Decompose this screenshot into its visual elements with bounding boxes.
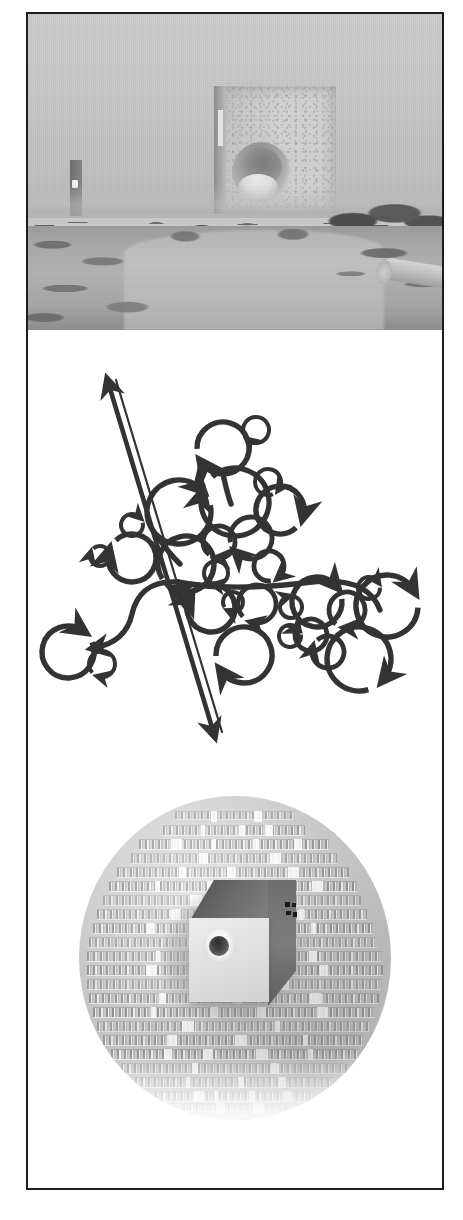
disc-text-gap	[309, 951, 317, 962]
cube-front-face	[189, 918, 269, 1002]
disc-text-gap	[235, 1035, 247, 1046]
disc-text-gap	[317, 1007, 328, 1018]
disc-text-gap	[253, 839, 259, 850]
panel-photograph	[28, 14, 442, 330]
circular-arrow-loop	[279, 625, 301, 647]
circular-arrow-loop	[256, 486, 304, 534]
panel-disc	[28, 782, 442, 1188]
disc-text-gap	[192, 1063, 198, 1074]
disc-text-gap	[214, 1091, 218, 1102]
figure-frame	[26, 12, 444, 1190]
disc-text-gap	[275, 1021, 280, 1032]
disc-text-row	[183, 1104, 287, 1111]
branch-curves	[94, 474, 380, 648]
diagram-canvas	[28, 330, 442, 782]
branch-curve-left	[94, 582, 178, 648]
registration-marks-icon	[285, 902, 301, 920]
disc-text-row	[111, 1050, 357, 1059]
disc-text-gap	[147, 923, 155, 934]
disc-text-gap	[193, 1091, 204, 1102]
disc-text-gap	[159, 993, 166, 1004]
circular-arrow-loop	[42, 626, 94, 678]
disc-text-gap	[256, 1049, 268, 1060]
disc-text-gap	[211, 811, 217, 822]
disc-text-gap	[216, 1103, 225, 1114]
disc-text-gap	[270, 853, 281, 864]
disc-text-gap	[212, 839, 216, 850]
disc-text-gap	[171, 839, 182, 850]
disc-text-gap	[203, 1049, 213, 1060]
circular-arrow-loop	[108, 534, 156, 582]
disc-text-gap	[156, 951, 160, 962]
disc-text-row	[121, 1064, 347, 1073]
disc-text-gap	[311, 923, 316, 934]
disc-text-gap	[278, 1077, 286, 1088]
disc-text-gap	[312, 881, 323, 892]
figure-page	[0, 0, 463, 1220]
disc-text-gap	[294, 839, 302, 850]
disc-text-gap	[239, 825, 245, 836]
disc-assembly	[79, 796, 391, 1120]
disc-text-row	[103, 1036, 363, 1045]
disc-text-gap	[288, 867, 299, 878]
disc-text-gap	[167, 1035, 177, 1046]
disc-text-gap	[271, 1063, 279, 1074]
disc-text-gap	[155, 881, 160, 892]
circular-arrow-loop	[327, 627, 391, 691]
disc-text-gap	[310, 993, 321, 1004]
disc-text-gap	[146, 965, 157, 976]
circular-arrow-loops	[42, 417, 418, 691]
disc-text-gap	[164, 1049, 172, 1060]
disc-text-gap	[265, 825, 273, 836]
disc-text-gap	[238, 1077, 244, 1088]
disc-text-row	[135, 1078, 333, 1087]
disc-text-gap	[320, 965, 328, 976]
disc-text-row	[175, 812, 293, 819]
disc-text-gap	[199, 853, 208, 864]
disc-text-row	[163, 826, 305, 835]
photo-grain-overlay	[28, 14, 442, 330]
disc-text-gap	[151, 1007, 156, 1018]
disc-text-gap	[249, 1091, 255, 1102]
disc-text-gap	[308, 1049, 313, 1060]
disc-text-gap	[254, 811, 262, 822]
disc-text-gap	[179, 867, 186, 878]
disc-text-row	[131, 854, 337, 863]
connector-upper	[223, 474, 231, 504]
disc-text-gap	[227, 867, 236, 878]
disc-text-gap	[253, 1103, 264, 1114]
disc-text-gap	[303, 1035, 308, 1046]
disc-text-gap	[186, 1077, 190, 1088]
circular-arrow-loop	[216, 627, 272, 683]
panel-diagram	[28, 330, 442, 782]
cube-bore	[209, 936, 229, 956]
disc-text-gap	[283, 1091, 291, 1102]
disc-text-gap	[201, 825, 205, 836]
circular-arrow-loop	[254, 551, 284, 581]
disc-text-gap	[182, 1021, 194, 1032]
